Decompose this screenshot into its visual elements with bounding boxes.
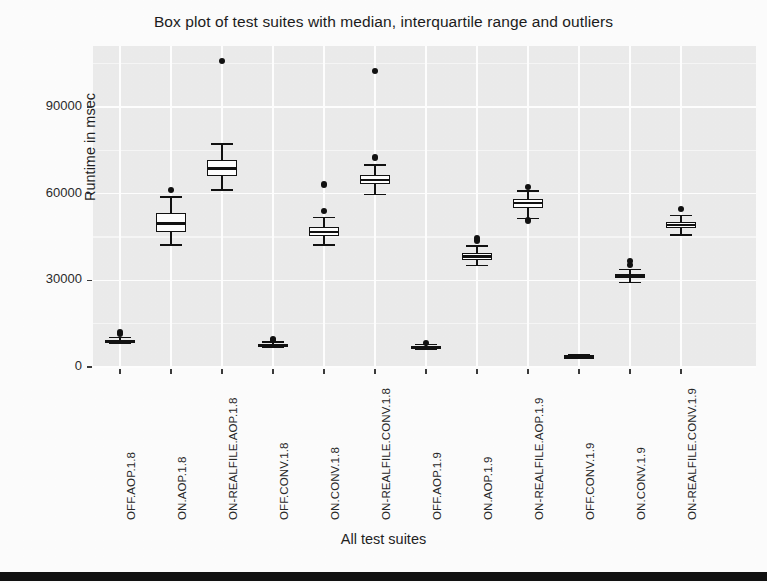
y-axis-tick-mark: [87, 280, 92, 281]
x-axis-tick-label: ON-REALFILE.AOP.1.8: [227, 398, 239, 521]
x-axis-tick-label: ON-REALFILE.CONV.1.8: [380, 388, 392, 520]
x-axis-tick-mark: [170, 369, 171, 374]
x-axis-tick-mark: [272, 369, 273, 374]
y-axis-tick-label: 60000: [22, 185, 82, 200]
x-axis-tick-mark: [629, 369, 630, 374]
y-axis-tick-label: 90000: [22, 98, 82, 113]
outlier-point: [678, 206, 684, 212]
x-axis-tick-mark: [476, 369, 477, 374]
x-axis-tick-mark: [374, 369, 375, 374]
chart-page: Box plot of test suites with median, int…: [0, 0, 767, 583]
x-axis-tick-label: ON.AOP.1.8: [176, 457, 188, 520]
x-axis-tick-mark: [578, 369, 579, 374]
median-line: [666, 224, 696, 227]
whisker-cap-lower: [670, 234, 693, 236]
x-axis-tick-mark: [221, 369, 222, 374]
x-axis-tick-label: OFF.CONV.1.8: [278, 443, 290, 520]
x-axis-tick-label: ON.CONV.1.9: [635, 447, 647, 520]
x-axis-tick-mark: [425, 369, 426, 374]
y-axis-tick-mark: [87, 366, 92, 367]
whisker-cap-upper: [670, 215, 693, 217]
y-axis-tick-label: 30000: [22, 271, 82, 286]
y-axis-tick-mark: [87, 193, 92, 194]
x-axis-tick-label: ON.CONV.1.8: [329, 447, 341, 520]
x-axis-tick-label: OFF.AOP.1.9: [431, 452, 443, 520]
x-axis-tick-label: ON-REALFILE.CONV.1.9: [686, 388, 698, 520]
x-axis-tick-mark: [680, 369, 681, 374]
x-axis-tick-label: ON-REALFILE.AOP.1.9: [533, 398, 545, 521]
x-axis-tick-mark: [119, 369, 120, 374]
y-axis-tick-label: 0: [22, 358, 82, 373]
x-axis-tick-mark: [323, 369, 324, 374]
x-axis-tick-label: OFF.AOP.1.8: [125, 452, 137, 520]
x-axis-tick-label: OFF.CONV.1.9: [584, 443, 596, 520]
x-axis-tick-label: ON.AOP.1.9: [482, 457, 494, 520]
x-axis-tick-mark: [527, 369, 528, 374]
y-axis-tick-mark: [87, 106, 92, 107]
